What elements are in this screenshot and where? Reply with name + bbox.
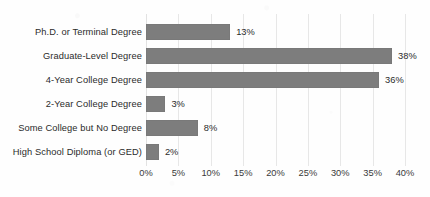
- bar-row: 2-Year College Degree3%: [146, 92, 405, 116]
- bar-row: Ph.D. or Terminal Degree13%: [146, 20, 405, 44]
- bar: [146, 24, 230, 40]
- category-label: High School Diploma (or GED): [13, 140, 142, 164]
- category-label: Some College but No Degree: [18, 116, 142, 140]
- category-label: 2-Year College Degree: [46, 92, 142, 116]
- bar-value-label: 2%: [165, 140, 178, 164]
- category-label: Ph.D. or Terminal Degree: [35, 20, 142, 44]
- bar-row: 4-Year College Degree36%: [146, 68, 405, 92]
- bar: [146, 48, 392, 64]
- bar-chart: Ph.D. or Terminal Degree13%Graduate-Leve…: [0, 0, 430, 197]
- x-tick-label: 30%: [331, 168, 350, 178]
- x-tick-label: 25%: [299, 168, 318, 178]
- bar: [146, 144, 159, 160]
- bar-row: Graduate-Level Degree38%: [146, 44, 405, 68]
- x-tick-label: 40%: [396, 168, 415, 178]
- bar: [146, 72, 379, 88]
- plot-area: Ph.D. or Terminal Degree13%Graduate-Leve…: [146, 14, 405, 166]
- bar-value-label: 3%: [171, 92, 184, 116]
- category-label: 4-Year College Degree: [46, 68, 142, 92]
- x-axis: 0%5%10%15%20%25%30%35%40%: [146, 168, 405, 188]
- x-tick-label: 35%: [363, 168, 382, 178]
- category-label: Graduate-Level Degree: [43, 44, 142, 68]
- bar-value-label: 8%: [204, 116, 217, 140]
- bar-row: High School Diploma (or GED)2%: [146, 140, 405, 164]
- x-tick-label: 0%: [139, 168, 152, 178]
- bar-value-label: 38%: [398, 44, 417, 68]
- bar-value-label: 13%: [236, 20, 255, 44]
- x-tick-label: 20%: [266, 168, 285, 178]
- bar-value-label: 36%: [385, 68, 404, 92]
- x-tick-label: 15%: [234, 168, 253, 178]
- bar: [146, 96, 165, 112]
- x-tick-label: 10%: [201, 168, 220, 178]
- x-tick-label: 5%: [172, 168, 185, 178]
- bar-row: Some College but No Degree8%: [146, 116, 405, 140]
- bar: [146, 120, 198, 136]
- gridline-40%: [405, 14, 406, 166]
